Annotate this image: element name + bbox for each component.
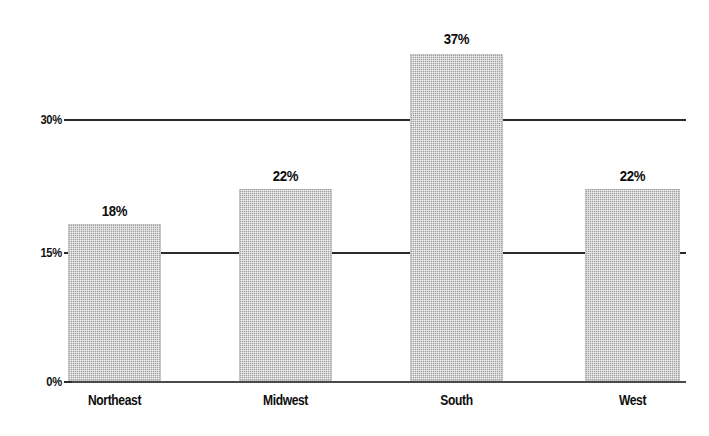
ytick-label-0: 0% bbox=[17, 374, 62, 389]
gridline-30 bbox=[68, 119, 686, 121]
bar-south bbox=[410, 54, 503, 381]
ytick-label-30-wrap: 30% bbox=[0, 112, 62, 128]
axis-baseline bbox=[68, 381, 686, 383]
ytick-label-30: 30% bbox=[17, 112, 62, 127]
ytick-dash-30 bbox=[64, 119, 72, 121]
plot-area: 30% 15% 0% 18% 22% 37% 22% Northeast Mid… bbox=[0, 0, 709, 436]
ytick-label-15: 15% bbox=[17, 245, 62, 260]
bar-northeast bbox=[68, 224, 161, 381]
value-label-south: 37% bbox=[416, 30, 498, 47]
category-label-south: South bbox=[408, 392, 505, 408]
ytick-label-0-wrap: 0% bbox=[0, 374, 62, 390]
value-label-northeast: 18% bbox=[74, 202, 156, 219]
value-label-midwest: 22% bbox=[245, 167, 327, 184]
category-label-northeast: Northeast bbox=[66, 392, 163, 408]
bar-west bbox=[585, 189, 680, 381]
ytick-label-15-wrap: 15% bbox=[0, 245, 62, 261]
value-label-west: 22% bbox=[591, 167, 675, 184]
bar-midwest bbox=[239, 189, 332, 381]
bar-chart: 30% 15% 0% 18% 22% 37% 22% Northeast Mid… bbox=[0, 0, 709, 436]
ytick-dash-0 bbox=[64, 381, 72, 383]
category-label-midwest: Midwest bbox=[237, 392, 334, 408]
category-label-west: West bbox=[583, 392, 682, 408]
